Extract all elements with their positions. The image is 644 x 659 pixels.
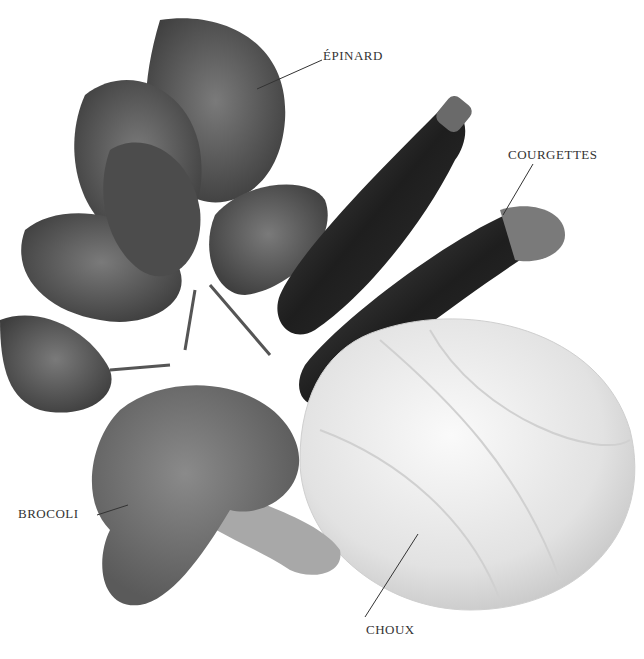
illustration bbox=[0, 0, 644, 659]
label-spinach: ÉPINARD bbox=[323, 48, 383, 64]
label-cabbage: CHOUX bbox=[366, 622, 415, 638]
label-zucchini: COURGETTES bbox=[508, 147, 598, 163]
spinach bbox=[0, 18, 328, 412]
label-broccoli: BROCOLI bbox=[18, 506, 79, 522]
broccoli bbox=[92, 385, 341, 605]
cabbage bbox=[300, 319, 635, 610]
